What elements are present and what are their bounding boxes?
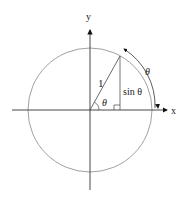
sine-label: sin θ xyxy=(123,86,142,97)
angle-label: θ xyxy=(102,97,107,108)
radius-label: 1 xyxy=(98,77,104,89)
right-angle-marker xyxy=(114,105,120,110)
angle-arc xyxy=(95,102,100,110)
y-axis-label: y xyxy=(86,11,91,22)
theta-arc-arrow xyxy=(124,49,155,108)
unit-circle-diagram: y x 1 θ sin θ θ xyxy=(0,0,191,202)
arc-label: θ xyxy=(145,66,150,77)
x-axis-label: x xyxy=(171,105,176,116)
